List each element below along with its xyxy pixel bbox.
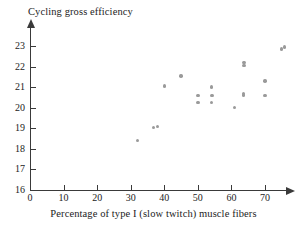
y-tick-mark [31, 190, 36, 191]
x-tick-label: 0 [18, 193, 42, 203]
data-point [136, 139, 139, 142]
data-point [263, 79, 266, 82]
x-tick-label: 70 [253, 193, 277, 203]
y-tick-mark [31, 149, 36, 150]
y-tick-mark [31, 67, 36, 68]
data-point [156, 125, 159, 128]
x-tick-label: 10 [52, 193, 76, 203]
y-tick-label: 19 [3, 123, 25, 133]
data-point [283, 45, 286, 48]
plot-title: Cycling gross efficiency [28, 6, 133, 17]
x-tick-mark [231, 185, 232, 190]
data-point [163, 84, 166, 87]
y-tick-mark [31, 169, 36, 170]
x-tick-label: 30 [119, 193, 143, 203]
y-tick-label: 20 [3, 103, 25, 113]
x-tick-label: 60 [219, 193, 243, 203]
x-tick-mark [131, 185, 132, 190]
y-tick-label: 18 [3, 144, 25, 154]
scatter-plot-figure: Cycling gross efficiency 161718192021222… [0, 0, 307, 232]
data-point [210, 85, 213, 88]
data-point [196, 94, 199, 97]
y-axis-arrow-icon [27, 19, 35, 28]
x-tick-mark [198, 185, 199, 190]
data-point [242, 93, 245, 96]
data-point [152, 126, 155, 129]
data-point [179, 74, 182, 77]
x-tick-mark [97, 185, 98, 190]
y-tick-label: 17 [3, 164, 25, 174]
x-tick-label: 50 [186, 193, 210, 203]
data-point [233, 106, 236, 109]
x-tick-label: 40 [152, 193, 176, 203]
x-tick-mark [265, 185, 266, 190]
data-point [210, 94, 213, 97]
x-tick-mark [30, 185, 31, 190]
x-tick-label: 20 [85, 193, 109, 203]
x-axis-arrow-icon [286, 187, 295, 195]
data-point [196, 101, 199, 104]
x-axis-label: Percentage of type I (slow twitch) muscl… [0, 208, 307, 219]
data-point [242, 64, 245, 67]
data-point [263, 94, 266, 97]
y-tick-mark [31, 108, 36, 109]
y-tick-label: 23 [3, 41, 25, 51]
data-point [210, 101, 213, 104]
y-tick-label: 21 [3, 82, 25, 92]
x-tick-mark [64, 185, 65, 190]
y-tick-mark [31, 128, 36, 129]
y-tick-label: 22 [3, 62, 25, 72]
y-tick-mark [31, 46, 36, 47]
x-axis-line [30, 190, 288, 191]
x-tick-mark [164, 185, 165, 190]
y-tick-mark [31, 87, 36, 88]
